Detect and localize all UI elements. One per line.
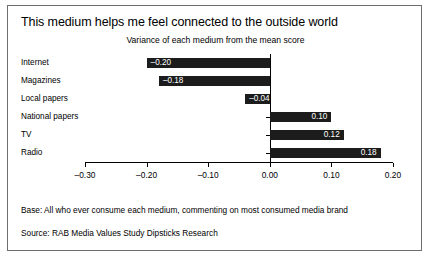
bar-value-label: 0.12 bbox=[324, 130, 340, 140]
footnote-base: Base: All who ever consume each medium, … bbox=[21, 205, 348, 215]
chart-title: This medium helps me feel connected to t… bbox=[21, 15, 338, 29]
value-axis: –0.20–0.18–0.040.100.120.18–0.30–0.20–0.… bbox=[85, 54, 405, 182]
bar: 0.18 bbox=[270, 148, 381, 158]
category-label: Magazines bbox=[21, 76, 90, 86]
bar: –0.18 bbox=[159, 76, 270, 86]
x-axis-tick bbox=[331, 163, 332, 167]
bar-value-label: –0.04 bbox=[249, 94, 270, 104]
category-label: Local papers bbox=[21, 94, 90, 104]
bar: –0.04 bbox=[245, 94, 270, 104]
x-axis-tick bbox=[393, 163, 394, 167]
category-label: National papers bbox=[21, 112, 90, 122]
bar-value-label: 0.10 bbox=[311, 112, 327, 122]
x-axis-tick bbox=[208, 163, 209, 167]
bar-value-label: 0.18 bbox=[361, 148, 377, 158]
footnote-source: Source: RAB Media Values Study Dipsticks… bbox=[21, 228, 218, 238]
bar: 0.10 bbox=[270, 112, 332, 122]
bar-value-label: –0.18 bbox=[163, 76, 184, 86]
zero-reference-line bbox=[270, 54, 271, 163]
bar: –0.20 bbox=[147, 58, 270, 68]
bar-value-label: –0.20 bbox=[151, 58, 172, 68]
x-axis-tick-label: –0.20 bbox=[136, 170, 157, 180]
x-axis-tick-label: –0.30 bbox=[75, 170, 96, 180]
category-axis: InternetMagazinesLocal papersNational pa… bbox=[21, 54, 90, 172]
category-label: Radio bbox=[21, 148, 90, 158]
x-axis-tick-label: 0.20 bbox=[385, 170, 401, 180]
category-label: Internet bbox=[21, 58, 90, 68]
axis-baseline bbox=[85, 162, 393, 163]
chart-card: This medium helps me feel connected to t… bbox=[7, 5, 422, 251]
x-axis-tick bbox=[147, 163, 148, 167]
bar: 0.12 bbox=[270, 130, 344, 140]
x-axis-tick-label: 0.00 bbox=[262, 170, 278, 180]
chart-subtitle: Variance of each medium from the mean sc… bbox=[8, 35, 423, 45]
x-axis-tick bbox=[85, 163, 86, 167]
x-axis-tick-label: –0.10 bbox=[198, 170, 219, 180]
category-label: TV bbox=[21, 130, 90, 140]
x-axis-tick-label: 0.10 bbox=[323, 170, 339, 180]
plot-area: InternetMagazinesLocal papersNational pa… bbox=[21, 54, 411, 182]
x-axis-tick bbox=[270, 163, 271, 167]
